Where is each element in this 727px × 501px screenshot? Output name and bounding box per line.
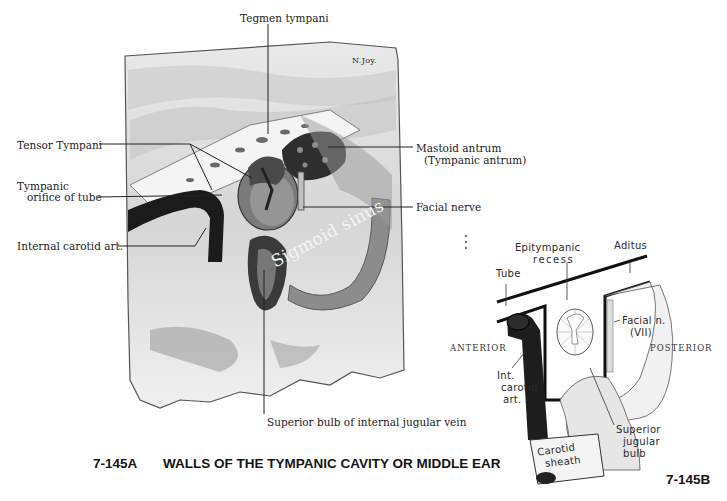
label-facial-n-line1: Facial n. [622,315,666,326]
artist-signature: N.Joy. [352,55,377,66]
label-int-carotid-line3: art. [503,394,522,405]
label-tube: Tube [496,268,521,279]
caption-id-b: 7-145B [666,472,710,487]
label-tympanic-orifice-line2: orifice of tube [27,191,102,203]
label-tensor-tympani: Tensor Tympani [17,139,102,151]
label-facial-n-line2: (VII) [630,327,652,338]
label-superior-jugular-line3: bulb [623,448,646,459]
label-superior-bulb: Superior bulb of internal jugular vein [267,416,466,428]
label-posterior: POSTERIOR [650,343,713,353]
label-mastoid-antrum-line1: Mastoid antrum [416,142,501,154]
label-int-carotid-line2: carotid [501,382,538,393]
label-epitympanic-line2: recess [533,254,574,265]
label-epitympanic-line1: Epitympanic [515,242,580,253]
label-anterior: ANTERIOR [450,343,507,353]
label-mastoid-antrum-line2: (Tympanic antrum) [424,154,526,166]
label-internal-carotid: Internal carotid art. [17,240,123,252]
caption-id-a: 7-145A [93,456,137,471]
label-tegmen-tympani: Tegmen tympani [240,12,329,24]
label-int-carotid-line1: Int. [497,370,515,381]
label-facial-nerve: Facial nerve [416,201,481,213]
label-aditus: Aditus [614,240,647,251]
label-superior-jugular-line2: jugular [623,436,660,447]
label-superior-jugular-line1: Superior [616,424,661,435]
caption-title-a: WALLS OF THE TYMPANIC CAVITY OR MIDDLE E… [163,456,501,471]
